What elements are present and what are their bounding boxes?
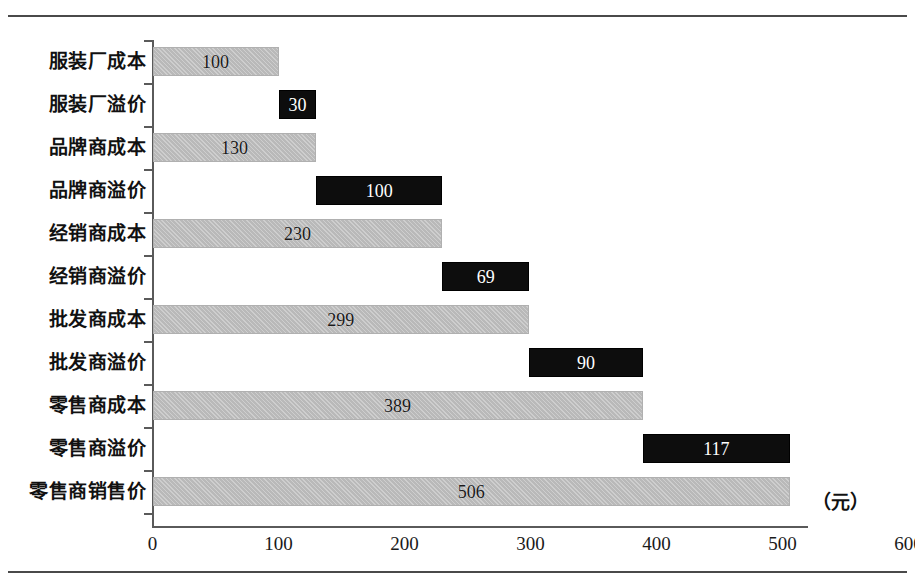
bar-value-label: 299	[327, 311, 354, 329]
chart-row: 品牌商成本130	[0, 126, 915, 169]
y-axis-tick	[144, 513, 153, 515]
bar-value-label: 30	[288, 96, 306, 114]
bar-value-label: 130	[221, 139, 248, 157]
bar-value-label: 69	[477, 268, 495, 286]
bar-premium-10: 117	[643, 434, 790, 463]
category-label-9: 零售商成本	[10, 384, 146, 427]
bar-value-label: 506	[458, 483, 485, 501]
chart-container: 服装厂成本100服装厂溢价30品牌商成本130品牌商溢价100经销商成本230经…	[0, 0, 915, 578]
unit-annotation: （元）	[812, 487, 869, 514]
chart-row: 零售商销售价506	[0, 470, 915, 513]
category-label-6: 经销商溢价	[10, 255, 146, 298]
chart-row: 批发商成本299	[0, 298, 915, 341]
x-tick-label-500: 500	[753, 533, 813, 555]
bar-value-label: 100	[366, 182, 393, 200]
bar-cost-1: 100	[153, 47, 279, 76]
category-label-11: 零售商销售价	[10, 470, 146, 513]
x-axis-line	[152, 526, 808, 528]
chart-row: 经销商成本230	[0, 212, 915, 255]
bar-value-label: 100	[202, 53, 229, 71]
category-label-2: 服装厂溢价	[10, 83, 146, 126]
chart-row: 品牌商溢价100	[0, 169, 915, 212]
x-tick-label-600: 600	[879, 533, 915, 555]
x-tick-label-0: 0	[123, 533, 183, 555]
chart-row: 服装厂成本100	[0, 40, 915, 83]
chart-row: 经销商溢价69	[0, 255, 915, 298]
category-label-7: 批发商成本	[10, 298, 146, 341]
chart-row: 零售商成本389	[0, 384, 915, 427]
x-tick-label-200: 200	[375, 533, 435, 555]
bar-cost-9: 389	[153, 391, 643, 420]
bar-premium-4: 100	[316, 176, 442, 205]
bar-premium-2: 30	[279, 90, 317, 119]
bar-cost-3: 130	[153, 133, 317, 162]
bar-value-label: 90	[577, 354, 595, 372]
category-label-10: 零售商溢价	[10, 427, 146, 470]
plot-area: 服装厂成本100服装厂溢价30品牌商成本130品牌商溢价100经销商成本230经…	[0, 0, 915, 578]
x-tick-label-300: 300	[501, 533, 561, 555]
bar-premium-6: 69	[442, 262, 529, 291]
x-tick-label-100: 100	[249, 533, 309, 555]
x-tick-label-400: 400	[627, 533, 687, 555]
chart-row: 批发商溢价90	[0, 341, 915, 384]
bar-cost-7: 299	[153, 305, 530, 334]
category-label-1: 服装厂成本	[10, 40, 146, 83]
bar-cost-5: 230	[153, 219, 443, 248]
category-label-8: 批发商溢价	[10, 341, 146, 384]
chart-row: 服装厂溢价30	[0, 83, 915, 126]
bar-value-label: 230	[284, 225, 311, 243]
bar-value-label: 117	[703, 440, 729, 458]
chart-row: 零售商溢价117	[0, 427, 915, 470]
bar-cost-11: 506	[153, 477, 791, 506]
category-label-3: 品牌商成本	[10, 126, 146, 169]
bar-premium-8: 90	[529, 348, 642, 377]
category-label-5: 经销商成本	[10, 212, 146, 255]
bar-value-label: 389	[384, 397, 411, 415]
category-label-4: 品牌商溢价	[10, 169, 146, 212]
